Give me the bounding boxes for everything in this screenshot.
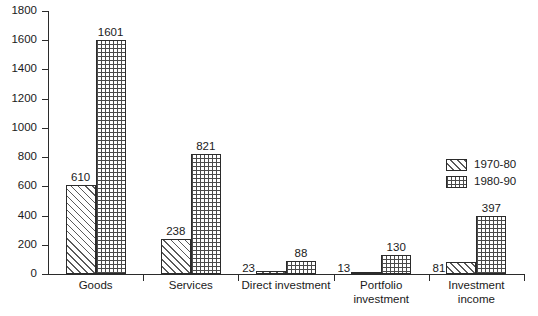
bar[interactable]: 238 [161, 239, 191, 274]
bar[interactable]: 397 [476, 216, 506, 274]
y-axis-tick-label: 1600 [11, 33, 37, 46]
bar-value-label: 610 [71, 171, 90, 184]
bar-wrapper: 397 [476, 216, 506, 274]
bar-wrapper: 88 [286, 261, 316, 274]
bar-value-label: 23 [242, 262, 255, 275]
bar-group: 6101601 [48, 11, 143, 274]
category-label-line: Direct investment [238, 278, 333, 292]
bar-wrapper: 821 [191, 154, 221, 274]
bar-value-label: 88 [295, 247, 308, 260]
bar-wrapper: 23 [256, 271, 286, 274]
bar[interactable]: 821 [191, 154, 221, 274]
bar-group: 2388 [238, 11, 333, 274]
bar-wrapper: 1601 [96, 40, 126, 274]
bar-value-label: 81 [433, 262, 446, 275]
bar-chart: 180016001400120010008006004002000 610160… [0, 0, 538, 316]
x-axis-line [48, 274, 524, 275]
y-axis-tick-label: 200 [18, 238, 37, 251]
y-axis-tick-label: 600 [18, 179, 37, 192]
y-axis-tick-label: 1800 [11, 4, 37, 17]
category-label-line: Services [143, 278, 238, 292]
bar-value-label: 821 [196, 140, 215, 153]
y-axis-tick-label: 1400 [11, 62, 37, 75]
bar-value-label: 130 [387, 241, 406, 254]
bar-wrapper: 81 [446, 262, 476, 274]
bar-wrapper: 130 [381, 255, 411, 274]
bar[interactable]: 610 [66, 185, 96, 274]
bar-group: 81397 [429, 11, 524, 274]
bar-value-label: 13 [337, 262, 350, 275]
bar-group: 238821 [143, 11, 238, 274]
category-label-line: investment [334, 292, 429, 306]
category-label: Investmentincome [429, 278, 524, 306]
x-axis-separator [524, 274, 525, 281]
bar-value-label: 397 [482, 202, 501, 215]
bar-value-label: 1601 [98, 26, 124, 39]
category-label-line: Goods [48, 278, 143, 292]
legend-swatch-dots-icon [446, 176, 467, 188]
legend-item-1970-80: 1970-80 [446, 158, 516, 171]
bar[interactable]: 81 [446, 262, 476, 274]
category-label-line: Portfolio [334, 278, 429, 292]
category-label: Portfolioinvestment [334, 278, 429, 306]
bar[interactable]: 23 [256, 271, 286, 274]
category-label: Goods [48, 278, 143, 292]
bar[interactable]: 88 [286, 261, 316, 274]
plot-area: 610160123882123881313081397 [48, 11, 524, 274]
bar-value-label: 238 [166, 225, 185, 238]
y-axis-tick-label: 1000 [11, 121, 37, 134]
bar-wrapper: 238 [161, 239, 191, 274]
bar-wrapper: 610 [66, 185, 96, 274]
legend-label: 1980-90 [474, 175, 516, 188]
legend-item-1980-90: 1980-90 [446, 175, 516, 188]
y-axis-tick-label: 400 [18, 209, 37, 222]
category-label: Direct investment [238, 278, 333, 292]
category-label: Services [143, 278, 238, 292]
y-axis-tick-label: 0 [31, 267, 37, 280]
bar[interactable]: 1601 [96, 40, 126, 274]
category-label-line: Investment [429, 278, 524, 292]
bar-group: 13130 [334, 11, 429, 274]
category-label-line: income [429, 292, 524, 306]
y-axis-tick-label: 800 [18, 150, 37, 163]
y-axis-tick-label: 1200 [11, 92, 37, 105]
legend: 1970-80 1980-90 [446, 158, 516, 192]
legend-label: 1970-80 [474, 158, 516, 171]
legend-swatch-hatch-icon [446, 159, 467, 171]
bar[interactable]: 13 [351, 272, 381, 274]
bar-wrapper: 13 [351, 272, 381, 274]
bar[interactable]: 130 [381, 255, 411, 274]
